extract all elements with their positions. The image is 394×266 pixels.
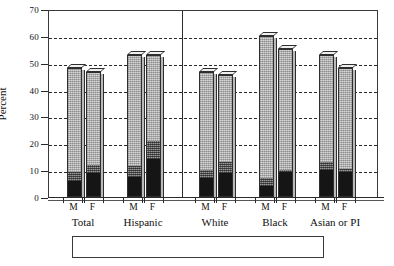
bar-segment-quit-3-months xyxy=(67,181,82,197)
bar-segment-quit-3-months xyxy=(319,162,334,170)
x-axis-tick xyxy=(163,198,164,203)
x-axis-sex-label-f: F xyxy=(335,202,355,212)
bar-top-cap xyxy=(86,68,105,72)
bar-top-cap xyxy=(67,64,86,68)
x-axis-sex-label-m: M xyxy=(196,202,216,212)
y-axis-tick xyxy=(41,91,48,92)
bar-side-face xyxy=(233,77,236,197)
bar-segment-quit-3-months xyxy=(199,178,214,197)
bar-hispanic-m xyxy=(127,55,142,197)
bar-top-cap xyxy=(218,71,237,75)
bar-top-cap xyxy=(319,51,338,55)
x-axis-tick xyxy=(355,198,356,203)
x-axis-tick xyxy=(235,198,236,203)
x-axis-sex-label-m: M xyxy=(64,202,84,212)
y-axis-tick-label: 50 xyxy=(30,59,39,69)
x-axis-sex-label-m: M xyxy=(124,202,144,212)
x-axis-group-label-total: Total xyxy=(72,216,94,228)
legend xyxy=(72,236,324,258)
bar-top-cap xyxy=(127,51,146,55)
bar-segment-quit-3-months xyxy=(338,172,353,198)
y-axis-title: Percent xyxy=(0,88,8,121)
bar-segment-quit-3-months xyxy=(199,170,214,178)
bar-segment-quit-3-months xyxy=(146,141,161,160)
bar-side-face xyxy=(293,51,296,197)
y-axis-tick xyxy=(41,171,48,172)
bar-asian-or-pi-m xyxy=(319,55,334,197)
x-axis-sex-label-f: F xyxy=(215,202,235,212)
bar-white-f xyxy=(218,75,233,197)
bar-total-f xyxy=(86,72,101,197)
bar-segment-quit-3-months xyxy=(338,169,353,172)
y-axis-tick xyxy=(41,144,48,145)
bar-hispanic-f xyxy=(146,55,161,197)
bar-segment-quit-3-months xyxy=(146,159,161,197)
bar-side-face xyxy=(353,70,356,197)
x-axis-group-label-white: White xyxy=(202,216,229,228)
bar-white-m xyxy=(199,72,214,197)
y-axis-tick-label: 10 xyxy=(30,166,39,176)
chart-figure: Percent 010203040506070 MFTotalMFHispani… xyxy=(0,0,394,266)
bar-segment-quit-3-months xyxy=(259,186,274,197)
y-axis-tick-label: 0 xyxy=(34,193,39,203)
bar-side-face xyxy=(161,57,164,197)
bar-side-face xyxy=(274,38,277,197)
bar-asian-or-pi-f xyxy=(338,68,353,197)
bar-segment-quit-3-months xyxy=(319,170,334,197)
plot-area xyxy=(48,10,378,198)
x-axis-group-label-black: Black xyxy=(262,216,288,228)
bar-segment-quit-3-months xyxy=(218,162,233,173)
bar-segment-quit-3-months xyxy=(218,173,233,197)
x-axis-tick xyxy=(103,198,104,203)
bar-segment-relapsed xyxy=(146,55,161,141)
bar-segment-quit-3-months xyxy=(127,177,142,197)
x-axis-sex-label-f: F xyxy=(143,202,163,212)
x-axis-sex-label-f: F xyxy=(275,202,295,212)
group-separator xyxy=(182,11,183,197)
bar-black-m xyxy=(259,36,274,197)
y-axis-tick-label: 70 xyxy=(30,5,39,15)
bar-top-cap xyxy=(199,68,218,72)
bar-segment-relapsed xyxy=(199,72,214,170)
bar-segment-quit-3-months xyxy=(278,170,293,171)
bar-top-cap xyxy=(338,64,357,68)
bar-segment-relapsed xyxy=(127,55,142,166)
y-axis-tick-label: 30 xyxy=(30,112,39,122)
y-axis-tick xyxy=(41,37,48,38)
x-axis-group-label-hispanic: Hispanic xyxy=(123,216,162,228)
bar-segment-quit-3-months xyxy=(67,172,82,181)
bar-top-cap xyxy=(259,32,278,36)
bar-side-face xyxy=(101,74,104,197)
bar-top-cap xyxy=(278,45,297,49)
y-axis-tick-label: 20 xyxy=(30,139,39,149)
bar-side-face xyxy=(142,57,145,197)
bar-segment-quit-3-months xyxy=(127,166,142,177)
x-axis-sex-label-m: M xyxy=(256,202,276,212)
y-axis-tick xyxy=(41,10,48,11)
bar-segment-quit-3-months xyxy=(259,178,274,186)
y-axis-tick-label: 40 xyxy=(30,86,39,96)
bar-segment-quit-3-months xyxy=(86,173,101,197)
bar-segment-quit-3-months xyxy=(86,165,101,173)
bar-black-f xyxy=(278,49,293,197)
bar-total-m xyxy=(67,68,82,197)
bar-side-face xyxy=(334,57,337,197)
x-axis-tick xyxy=(295,198,296,203)
bar-segment-relapsed xyxy=(338,68,353,169)
bar-segment-relapsed xyxy=(259,36,274,178)
bar-segment-relapsed xyxy=(278,49,293,170)
x-axis-sex-label-f: F xyxy=(83,202,103,212)
y-axis-tick xyxy=(41,117,48,118)
bar-side-face xyxy=(214,74,217,197)
bar-segment-quit-3-months xyxy=(278,172,293,198)
y-axis-tick-label: 60 xyxy=(30,32,39,42)
x-axis-group-label-asian-or-pi: Asian or PI xyxy=(310,216,360,228)
y-axis-tick xyxy=(41,198,48,199)
gridline xyxy=(49,38,377,39)
x-axis-sex-label-m: M xyxy=(316,202,336,212)
bar-side-face xyxy=(82,70,85,197)
bar-segment-relapsed xyxy=(319,55,334,162)
plot-inner xyxy=(49,11,377,197)
bar-segment-relapsed xyxy=(218,75,233,162)
bar-top-cap xyxy=(146,51,165,55)
